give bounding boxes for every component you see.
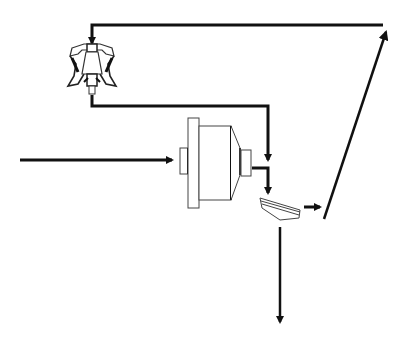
cone-crusher-icon (68, 44, 116, 94)
ball-mill-icon (180, 118, 251, 208)
recycle-up-arrow (324, 32, 386, 219)
mill-discharge-line (252, 168, 268, 193)
classifier-icon (260, 198, 300, 220)
process-flow-diagram (0, 0, 415, 346)
recycle-to-crusher-line (92, 25, 383, 43)
